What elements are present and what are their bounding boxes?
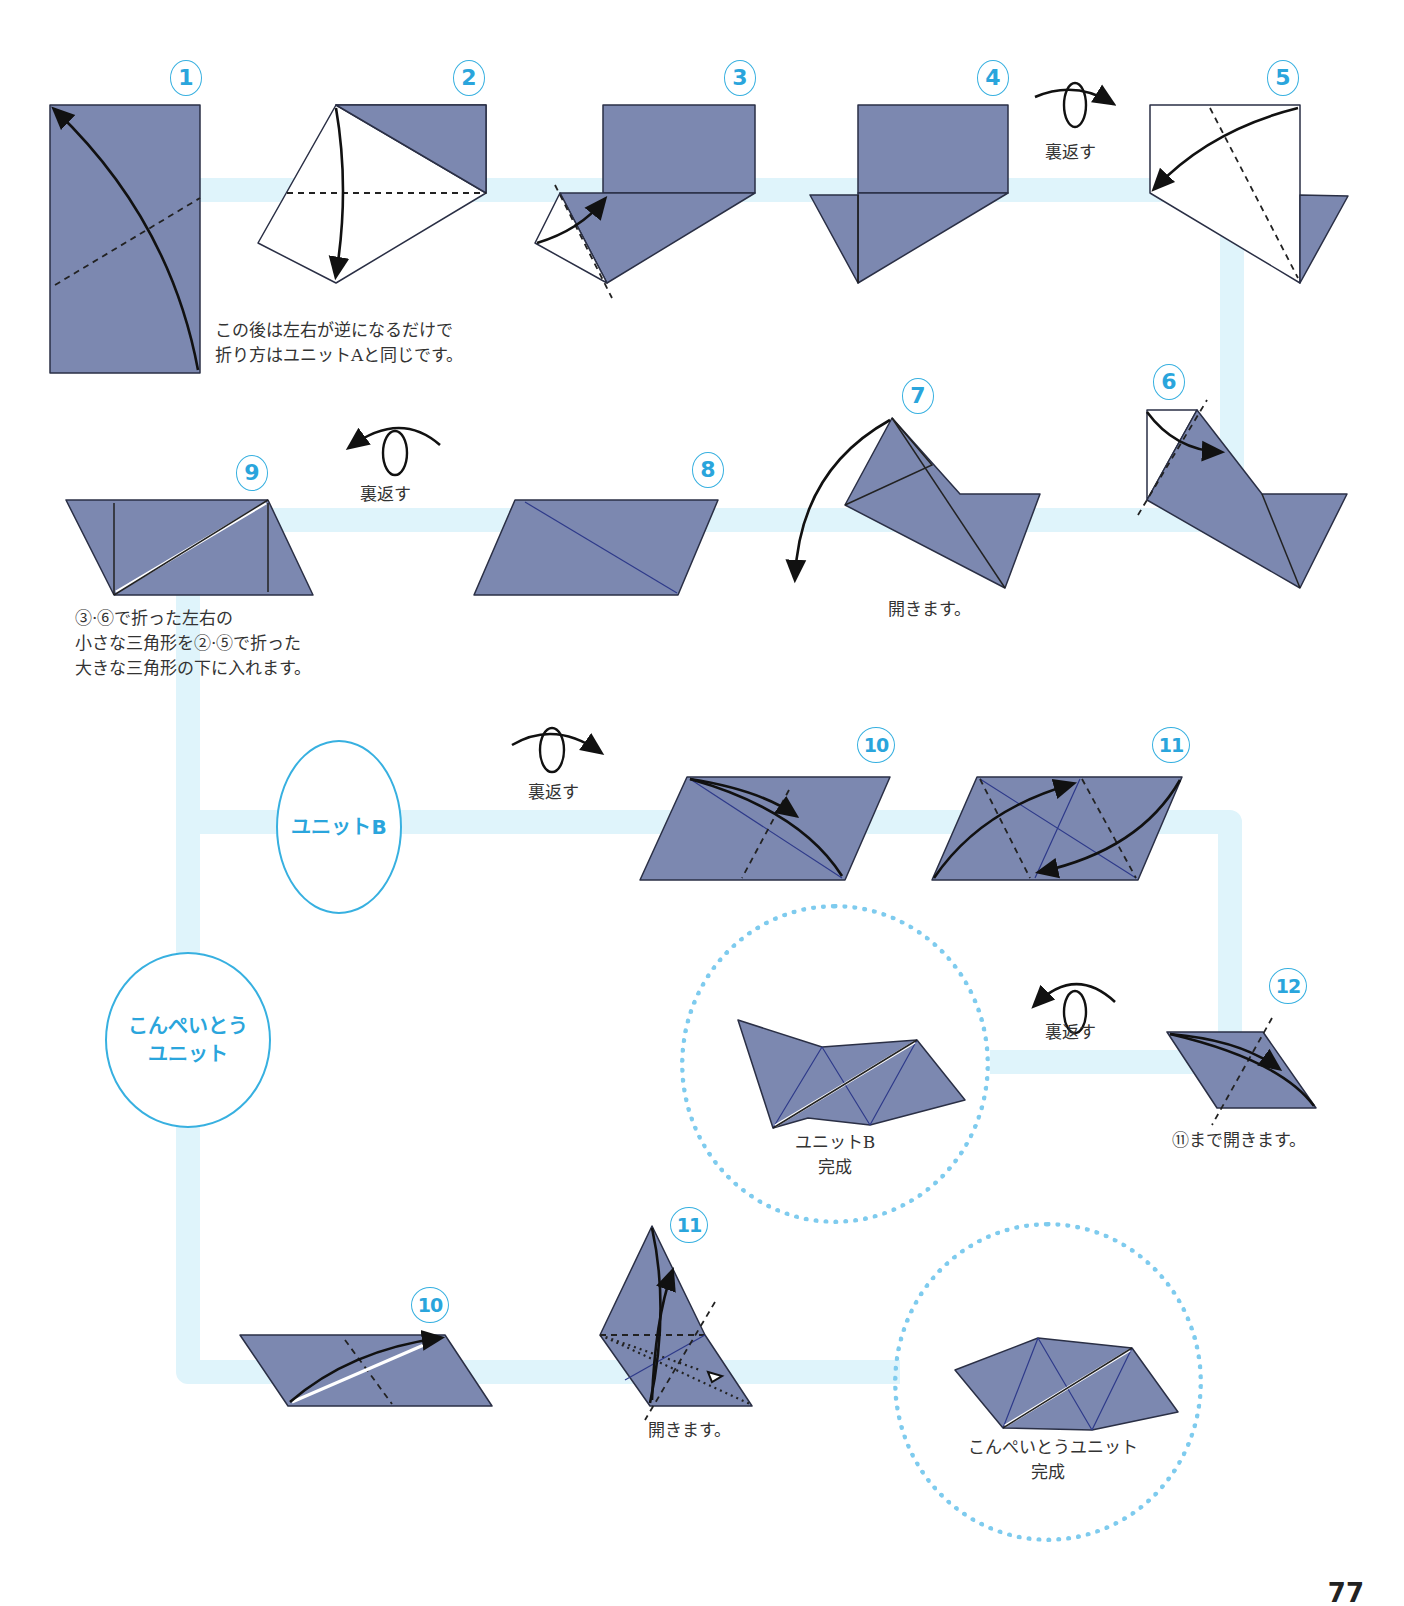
- flip-over-icon: [512, 728, 600, 772]
- step-badge-b12: 12: [1269, 968, 1307, 1004]
- step-badge-b10: 10: [857, 727, 895, 763]
- step9-note-line3: 大きな三角形の下に入れます。: [75, 656, 311, 681]
- stepK11-diagram: [600, 1226, 752, 1420]
- step8-diagram: [474, 500, 718, 595]
- step3-diagram: [535, 105, 755, 298]
- step-badge-5: 5: [1267, 60, 1299, 96]
- step1-diagram: [50, 105, 200, 373]
- step-badge-b11: 11: [1152, 727, 1190, 763]
- step-badge-7: 7: [902, 378, 934, 414]
- unit-b-complete-line1: ユニットB: [780, 1130, 890, 1155]
- step-badge-2: 2: [453, 60, 485, 96]
- reverse-note-line2: 折り方はユニットAと同じです。: [215, 343, 463, 368]
- stepB11-diagram: [932, 777, 1182, 880]
- step-badge-3: 3: [724, 60, 756, 96]
- konpeito-complete-label: こんぺいとうユニット 完成: [968, 1435, 1128, 1485]
- step2-diagram: [258, 105, 486, 283]
- konpeito-complete-ring: [893, 1222, 1203, 1542]
- konpeito-complete-line1: こんぺいとうユニット: [968, 1435, 1128, 1460]
- unit-b-title-text: ユニットB: [291, 813, 386, 841]
- open-note-7: 開きます。: [888, 597, 971, 622]
- flip-label-1: 裏返す: [1045, 140, 1096, 165]
- open-to-11-note: ⑪まで開きます。: [1172, 1128, 1306, 1153]
- unit-b-title: ユニットB: [276, 740, 402, 914]
- step5-diagram: [1150, 105, 1348, 283]
- open-note-k11: 開きます。: [648, 1418, 731, 1443]
- step-badge-4: 4: [977, 60, 1009, 96]
- step9-note: ③·⑥で折った左右の 小さな三角形を②·⑤で折った 大きな三角形の下に入れます。: [75, 606, 311, 681]
- step9-note-line2: 小さな三角形を②·⑤で折った: [75, 631, 311, 656]
- konpeito-unit-title: こんぺいとう ユニット: [105, 952, 271, 1128]
- step9-note-line1: ③·⑥で折った左右の: [75, 606, 311, 631]
- flip-over-icon: [1035, 83, 1112, 127]
- konpeito-complete-line2: 完成: [968, 1460, 1128, 1485]
- unit-b-complete-line2: 完成: [780, 1155, 890, 1180]
- step7-diagram: [795, 418, 1040, 588]
- page-number: 77: [1328, 1578, 1364, 1606]
- step-badge-8: 8: [692, 452, 724, 488]
- flip-label-4: 裏返す: [1045, 1020, 1096, 1045]
- konpeito-title-line1: こんぺいとう: [128, 1012, 248, 1040]
- step-badge-1: 1: [170, 60, 202, 96]
- reverse-note: この後は左右が逆になるだけで 折り方はユニットAと同じです。: [215, 318, 463, 368]
- stepB10-diagram: [640, 777, 890, 880]
- step-badge-k11: 11: [670, 1207, 708, 1243]
- unit-b-complete-label: ユニットB 完成: [780, 1130, 890, 1180]
- step-badge-6: 6: [1153, 364, 1185, 400]
- step-badge-9: 9: [236, 455, 268, 491]
- konpeito-title-line2: ユニット: [128, 1040, 248, 1068]
- flip-over-icon: [350, 428, 440, 475]
- stepK10-diagram: [240, 1335, 492, 1406]
- flip-label-3: 裏返す: [528, 780, 579, 805]
- flip-label-2: 裏返す: [360, 482, 411, 507]
- step-badge-k10: 10: [411, 1287, 449, 1323]
- reverse-note-line1: この後は左右が逆になるだけで: [215, 318, 463, 343]
